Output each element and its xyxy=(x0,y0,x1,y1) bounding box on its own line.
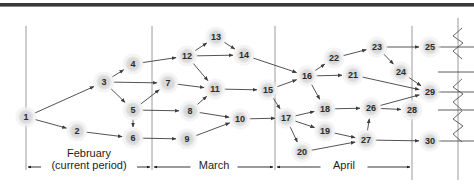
edge-18-to-26 xyxy=(335,108,360,109)
node-circle-12 xyxy=(179,48,196,65)
node-27[interactable]: 27 xyxy=(355,129,376,150)
node-5[interactable]: 5 xyxy=(122,99,143,120)
node-28[interactable]: 28 xyxy=(401,99,422,120)
edge-12-to-11 xyxy=(193,63,208,80)
node-circle-21 xyxy=(345,67,362,84)
node-21[interactable]: 21 xyxy=(342,64,363,85)
edge-3-to-7 xyxy=(114,82,157,83)
node-circle-29 xyxy=(422,84,439,101)
node-12[interactable]: 12 xyxy=(176,45,197,66)
node-circle-14 xyxy=(236,47,253,64)
node-circle-1 xyxy=(18,109,35,126)
node-11[interactable]: 11 xyxy=(204,78,225,99)
node-circle-8 xyxy=(182,103,199,120)
node-3[interactable]: 3 xyxy=(93,71,114,92)
edge-4-to-12 xyxy=(143,58,177,63)
edge-15-to-16 xyxy=(277,80,297,87)
node-circle-30 xyxy=(422,133,439,150)
node-circle-9 xyxy=(179,131,196,148)
timeline-period-february: February(current period) xyxy=(28,147,150,171)
project-network-graph: 1234567891011121314151617181920212223242… xyxy=(0,0,474,190)
edge-15-to-17 xyxy=(273,98,280,109)
node-17[interactable]: 17 xyxy=(275,107,296,128)
edge-27-to-26 xyxy=(367,119,369,131)
edge-20-to-27 xyxy=(311,142,355,150)
node-16[interactable]: 16 xyxy=(296,65,317,86)
edge-24-to-29 xyxy=(409,77,421,85)
node-25[interactable]: 25 xyxy=(419,36,440,57)
node-14[interactable]: 14 xyxy=(233,44,254,65)
node-20[interactable]: 20 xyxy=(291,141,312,162)
edge-16-to-22 xyxy=(315,64,325,71)
node-circle-20 xyxy=(294,144,311,161)
node-26[interactable]: 26 xyxy=(360,97,381,118)
node-10[interactable]: 10 xyxy=(229,108,250,129)
edge-17-to-19 xyxy=(295,121,314,127)
node-23[interactable]: 23 xyxy=(366,36,387,57)
node-circle-3 xyxy=(96,74,113,91)
edge-16-to-18 xyxy=(312,84,320,99)
edge-22-to-23 xyxy=(343,50,366,56)
edge-17-to-20 xyxy=(290,127,297,142)
node-circle-13 xyxy=(208,29,225,46)
node-circle-18 xyxy=(317,101,334,118)
node-circle-28 xyxy=(404,102,421,119)
node-13[interactable]: 13 xyxy=(205,26,226,47)
node-15[interactable]: 15 xyxy=(257,79,278,100)
node-circle-22 xyxy=(326,50,343,67)
edge-19-to-27 xyxy=(334,133,355,138)
node-30[interactable]: 30 xyxy=(419,130,440,151)
edge-1-to-2 xyxy=(35,120,66,129)
node-9[interactable]: 9 xyxy=(176,128,197,149)
edge-8-to-10 xyxy=(199,113,229,118)
node-circle-10 xyxy=(232,111,249,128)
edge-3-to-5 xyxy=(111,89,125,103)
node-18[interactable]: 18 xyxy=(314,98,335,119)
edge-12-to-14 xyxy=(197,55,233,56)
edge-5-to-7 xyxy=(141,90,160,104)
node-circle-26 xyxy=(363,100,380,117)
node-29[interactable]: 29 xyxy=(419,81,440,102)
node-1[interactable]: 1 xyxy=(15,106,36,127)
node-circle-17 xyxy=(278,110,295,127)
edge-13-to-14 xyxy=(224,42,235,49)
node-7[interactable]: 7 xyxy=(157,72,178,93)
node-circle-16 xyxy=(299,68,316,85)
node-circle-23 xyxy=(369,39,386,56)
node-circle-6 xyxy=(125,130,142,147)
period-label-march: March xyxy=(199,159,230,171)
period-label-february: February xyxy=(67,147,112,159)
node-22[interactable]: 22 xyxy=(323,47,344,68)
node-4[interactable]: 4 xyxy=(122,53,143,74)
period-label-april: April xyxy=(333,159,355,171)
node-8[interactable]: 8 xyxy=(179,100,200,121)
node-24[interactable]: 24 xyxy=(390,61,411,82)
node-circle-24 xyxy=(393,64,410,81)
edge-2-to-6 xyxy=(87,132,123,136)
edge-8-to-11 xyxy=(197,96,207,104)
edge-12-to-13 xyxy=(195,43,207,51)
edge-1-to-3 xyxy=(35,87,94,114)
edge-16-to-21 xyxy=(317,75,342,76)
network-diagram-figure: 1234567891011121314151617181920212223242… xyxy=(0,0,474,190)
activity-nodes: 1234567891011121314151617181920212223242… xyxy=(15,26,440,162)
edge-26-to-28 xyxy=(381,108,401,109)
edge-5-to-8 xyxy=(143,110,179,111)
timeline-axis: February(current period)MarchApril xyxy=(28,147,410,171)
node-circle-19 xyxy=(317,123,334,140)
node-circle-25 xyxy=(422,39,439,56)
edge-23-to-24 xyxy=(384,54,394,64)
node-circle-4 xyxy=(125,56,142,73)
edge-11-to-15 xyxy=(225,89,257,90)
edge-3-to-4 xyxy=(112,70,123,77)
node-circle-27 xyxy=(358,132,375,149)
edge-9-to-10 xyxy=(196,123,230,136)
node-circle-2 xyxy=(69,123,86,140)
node-6[interactable]: 6 xyxy=(122,127,143,148)
right-tail-lines xyxy=(438,47,474,141)
edge-7-to-11 xyxy=(178,84,205,87)
edge-6-to-9 xyxy=(143,138,176,139)
period-sublabel-february: (current period) xyxy=(51,159,126,171)
node-19[interactable]: 19 xyxy=(314,120,335,141)
node-2[interactable]: 2 xyxy=(66,120,87,141)
